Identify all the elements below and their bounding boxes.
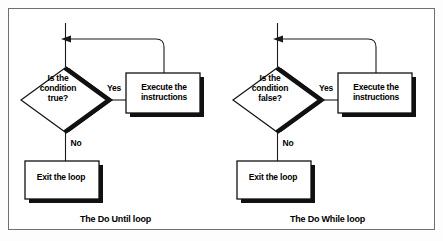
process-label: Execute the instructions xyxy=(127,82,201,102)
terminal-label: Exit the loop xyxy=(233,173,313,183)
flowchart-do-until: Is the condition true? Execute the instr… xyxy=(9,9,222,231)
branch-label-no: No xyxy=(66,139,86,149)
flowchart-graphics-do-until xyxy=(9,9,222,231)
loopback-connector xyxy=(68,39,164,74)
process-label: Execute the instructions xyxy=(339,82,413,102)
branch-label-no: No xyxy=(278,139,298,149)
decision-label: Is the condition true? xyxy=(15,73,101,103)
figure-frame: Is the condition true? Execute the instr… xyxy=(8,8,435,230)
diagram-caption: The Do Until loop xyxy=(9,214,222,224)
decision-label: Is the condition false? xyxy=(227,73,313,103)
branch-label-yes: Yes xyxy=(314,84,338,94)
flowchart-graphics-do-while xyxy=(221,9,434,231)
branch-label-yes: Yes xyxy=(102,84,126,94)
figure-root: Is the condition true? Execute the instr… xyxy=(0,0,443,241)
diagram-caption: The Do While loop xyxy=(221,214,434,224)
terminal-label: Exit the loop xyxy=(21,173,101,183)
flowchart-do-while: Is the condition false? Execute the inst… xyxy=(221,9,434,231)
loopback-connector xyxy=(280,39,376,74)
